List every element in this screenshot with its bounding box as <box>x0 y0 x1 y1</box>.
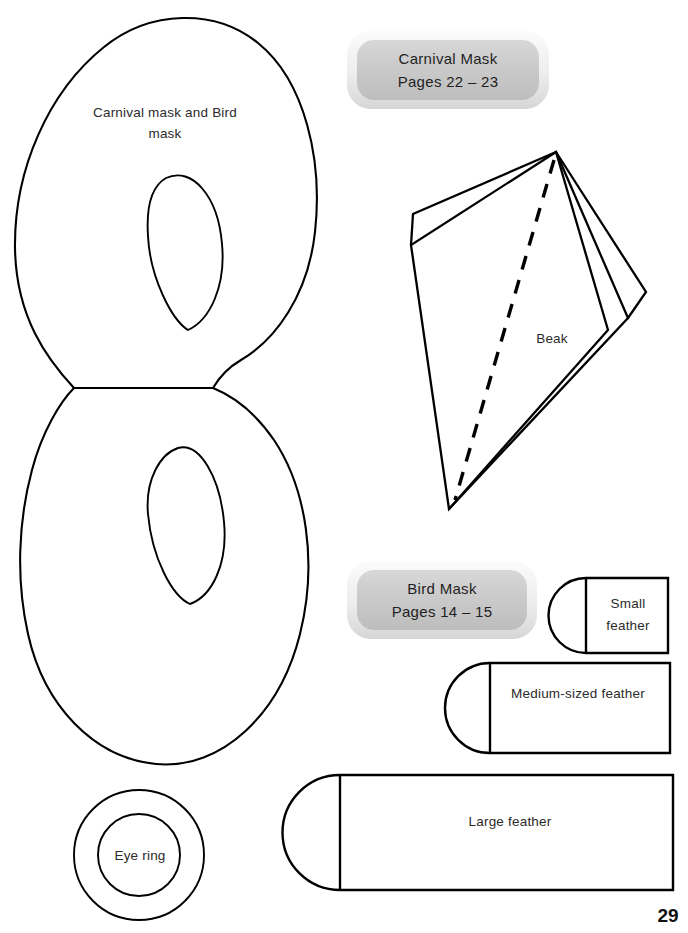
page-number: 29 <box>657 905 678 926</box>
medium-feather-outline <box>445 663 670 753</box>
medium-feather-label: Medium-sized feather <box>511 686 645 701</box>
small-feather-label-line1: Small <box>611 596 646 611</box>
beak-piece: Beak <box>411 152 646 509</box>
beak-label: Beak <box>536 331 568 346</box>
eye-ring-label: Eye ring <box>114 848 165 863</box>
eye-ring-piece: Eye ring <box>74 790 204 920</box>
large-feather-piece: Large feather <box>282 775 673 890</box>
small-feather-outline <box>549 578 669 653</box>
template-canvas: Carnival mask and Bird mask Beak Eye rin… <box>0 0 688 933</box>
mask-label-line2: mask <box>148 126 181 141</box>
large-feather-label: Large feather <box>469 814 552 829</box>
bird-mask-tab: Bird Mask Pages 14 – 15 <box>347 561 537 639</box>
small-feather-label-line2: feather <box>606 618 650 633</box>
bird-mask-tab-pages: Pages 14 – 15 <box>392 603 493 620</box>
beak-body <box>411 152 628 509</box>
carnival-and-bird-mask-piece: Carnival mask and Bird mask <box>15 18 317 764</box>
mask-label-line1: Carnival mask and Bird <box>93 105 237 120</box>
mask-upper-lobe <box>15 18 317 388</box>
small-feather-piece: Small feather <box>549 578 669 653</box>
carnival-mask-tab-title: Carnival Mask <box>399 50 498 67</box>
bird-mask-tab-inner <box>357 570 527 630</box>
carnival-mask-tab-pages: Pages 22 – 23 <box>398 73 499 90</box>
carnival-mask-tab-inner <box>357 40 539 100</box>
medium-feather-piece: Medium-sized feather <box>445 663 670 753</box>
mask-lower-lobe <box>20 388 308 764</box>
bird-mask-tab-title: Bird Mask <box>407 580 477 597</box>
template-page: Carnival mask and Bird mask Beak Eye rin… <box>0 0 688 933</box>
carnival-mask-tab: Carnival Mask Pages 22 – 23 <box>347 31 549 109</box>
